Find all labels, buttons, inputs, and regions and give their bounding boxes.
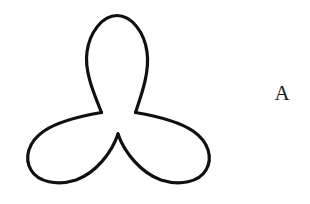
lower-left-petal-path xyxy=(28,113,118,183)
trefoil-figure xyxy=(0,0,310,204)
trefoil-shape xyxy=(28,16,210,183)
lower-right-petal-path xyxy=(118,113,209,183)
top-petal-path xyxy=(86,16,147,113)
figure-label-a: A xyxy=(270,80,294,106)
